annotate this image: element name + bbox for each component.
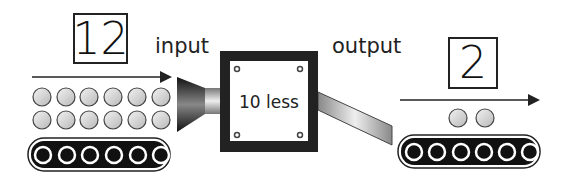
- input-funnel: [177, 77, 221, 132]
- machine-diagram: [0, 0, 570, 181]
- input-balls: [33, 88, 170, 129]
- output-balls: [449, 109, 494, 127]
- output-chute: [318, 92, 392, 145]
- input-conveyor-belt: [28, 138, 170, 171]
- output-conveyor-belt: [398, 135, 540, 168]
- machine-rule: 10 less: [230, 92, 308, 112]
- output-arrow-icon: [400, 94, 540, 106]
- input-arrow-icon: [32, 71, 172, 83]
